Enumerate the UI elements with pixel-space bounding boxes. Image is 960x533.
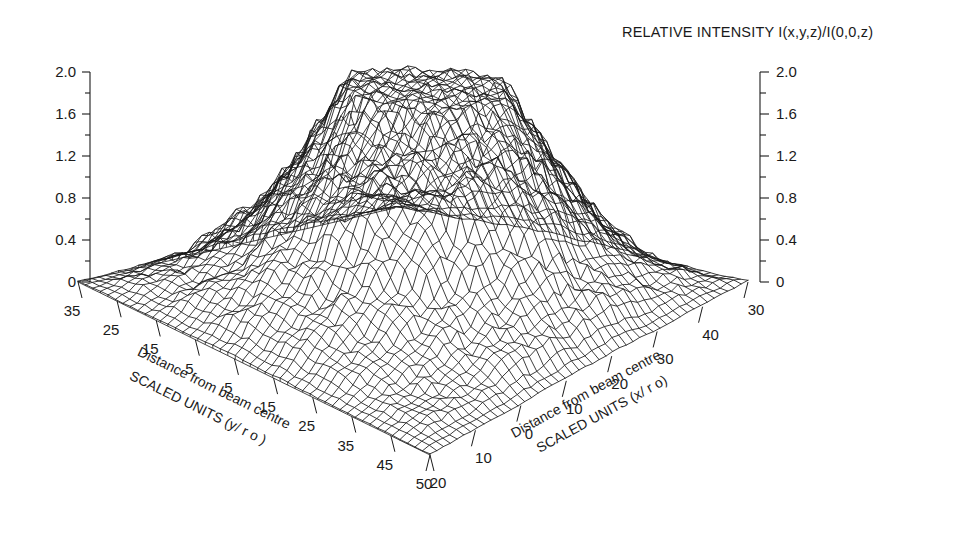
y-tick-label: 25 — [298, 417, 315, 434]
figure-page: RELATIVE INTENSITY I(x,y,z)/I(0,0,z) 2.0… — [0, 0, 960, 533]
z-right-tick-label: 0 — [776, 273, 784, 290]
z-left-tick-label: 0.4 — [55, 231, 76, 248]
surface-plot: 2.01.61.20.80.402.01.61.20.80.4035251555… — [0, 0, 960, 533]
z-left-tick-label: 1.2 — [55, 147, 76, 164]
x-tick-label: 40 — [702, 326, 719, 343]
y-tick-label: 25 — [103, 321, 120, 338]
y-tick-label: 45 — [377, 456, 394, 473]
z-right-tick-label: 2.0 — [776, 63, 797, 80]
z-left-tick-label: 1.6 — [55, 105, 76, 122]
z-right-tick-label: 1.2 — [776, 147, 797, 164]
x-tick-label: 20 — [430, 474, 447, 491]
z-left-tick-label: 0.8 — [55, 189, 76, 206]
y-tick-label: 35 — [64, 302, 81, 319]
z-right-tick-label: 0.4 — [776, 231, 797, 248]
z-right-tick-label: 0.8 — [776, 189, 797, 206]
x-tick-label: 10 — [475, 449, 492, 466]
z-left-tick-label: 0 — [68, 273, 76, 290]
x-tick-label: 30 — [748, 301, 765, 318]
z-right-tick-label: 1.6 — [776, 105, 797, 122]
z-left-tick-label: 2.0 — [55, 63, 76, 80]
y-tick-label: 35 — [337, 437, 354, 454]
